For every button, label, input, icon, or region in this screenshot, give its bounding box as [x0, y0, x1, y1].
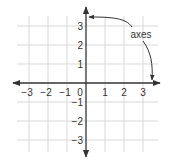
coordinate-plane: −3−2−10123321−1−2−3 axes [0, 0, 169, 163]
annotation-arrow-to-x-axis [143, 41, 152, 80]
y-tick-label: −2 [72, 116, 84, 127]
y-tick-label: 2 [77, 40, 83, 51]
y-tick-label: 1 [77, 59, 83, 70]
x-tick-label: 3 [140, 87, 146, 98]
x-tick-label: −2 [40, 87, 52, 98]
x-tick-label: 1 [102, 87, 108, 98]
annotation-label: axes [130, 29, 151, 40]
y-tick-label: −3 [72, 135, 84, 146]
y-tick-label: 3 [77, 21, 83, 32]
x-tick-label: −1 [59, 87, 71, 98]
x-tick-label: −3 [21, 87, 33, 98]
x-tick-label: 2 [121, 87, 127, 98]
y-tick-label: −1 [72, 97, 84, 108]
